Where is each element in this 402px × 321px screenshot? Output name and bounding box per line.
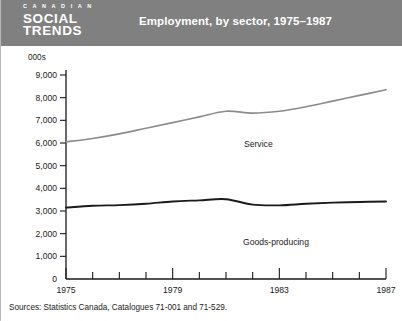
y-axis-tick-label: 6,000 [35,138,57,148]
y-axis-unit-group: 000s [28,53,46,62]
axis-lines-group [66,70,386,279]
source-note-group: Sources: Statistics Canada, Catalogues 7… [9,303,227,312]
y-axis-tick-label: 2,000 [35,229,57,239]
x-axis-tick-label: 1979 [163,285,182,295]
y-axis-tick-label: 8,000 [35,93,57,103]
logo-line-canadian: C A N A D I A N [23,4,123,10]
chart-title: Employment, by sector, 1975–1987 [139,15,332,27]
x-axis-tick-label: 1975 [56,285,75,295]
series-labels-group: ServiceGoods-producing [243,139,309,247]
y-axis-tick-label: 9,000 [35,70,57,80]
series-line-goods-producing [66,199,386,208]
canadian-social-trends-logo: C A N A D I A N SOCIAL TRENDS [23,4,123,38]
series-label-service: Service [244,139,273,149]
y-axis-tick-label: 5,000 [35,161,57,171]
x-axis-tick-label: 1983 [270,285,289,295]
header-inner: C A N A D I A N SOCIAL TRENDS Employment… [1,0,402,46]
logo-line-trends: TRENDS [23,24,123,38]
source-note: Sources: Statistics Canada, Catalogues 7… [9,303,227,312]
header-band: C A N A D I A N SOCIAL TRENDS Employment… [1,0,402,46]
line-chart-svg: 000s 01,0002,0003,0004,0005,0006,0007,00… [1,46,402,321]
y-axis-tick-label: 0 [52,274,57,284]
series-line-service [66,90,386,142]
y-axis-unit-label: 000s [28,53,46,62]
y-axis-tick-label: 7,000 [35,115,57,125]
series-label-goods-producing: Goods-producing [243,237,309,247]
y-axis-ticks-group: 01,0002,0003,0004,0005,0006,0007,0008,00… [35,70,66,284]
y-axis-tick-label: 1,000 [35,251,57,261]
y-axis-tick-label: 3,000 [35,206,57,216]
x-axis-ticks-group: 1975197919831987 [56,268,395,295]
x-axis-tick-label: 1987 [376,285,395,295]
plot-area: 000s 01,0002,0003,0004,0005,0006,0007,00… [1,46,402,321]
y-axis-tick-label: 4,000 [35,183,57,193]
data-series-group [66,90,386,208]
